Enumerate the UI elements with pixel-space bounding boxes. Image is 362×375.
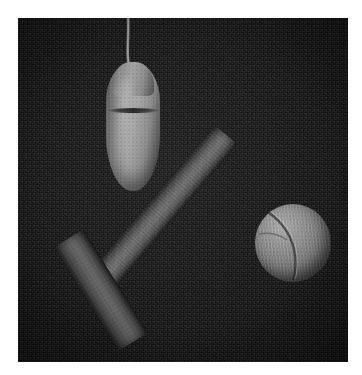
image-canvas: Three objects on a dark textured backgro… (0, 0, 362, 375)
mouse-highlight (116, 76, 136, 164)
ball-seam (255, 204, 331, 282)
mouse-seam-line (107, 108, 160, 113)
ball (251, 200, 339, 292)
photograph (18, 18, 348, 362)
computer-mouse (76, 18, 206, 208)
